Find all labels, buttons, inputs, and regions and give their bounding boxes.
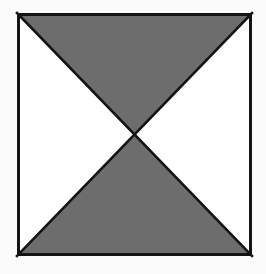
square-diagonals-figure: [0, 0, 266, 274]
figure-container: [0, 0, 266, 274]
